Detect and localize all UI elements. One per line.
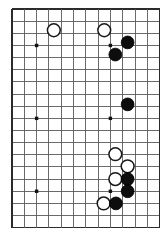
- black-stone-body: [109, 48, 122, 61]
- black-stone-body: [110, 197, 123, 210]
- black-stone-body: [121, 173, 134, 186]
- white-stone-body: [98, 24, 111, 37]
- stone-black[interactable]: [109, 48, 122, 61]
- white-stone-body: [97, 197, 110, 210]
- white-stone-body: [109, 173, 122, 186]
- white-stone-body: [47, 24, 60, 37]
- grid-lines-group: [12, 9, 160, 228]
- star-point: [109, 44, 112, 47]
- star-point: [109, 117, 112, 120]
- stone-white[interactable]: [109, 148, 122, 161]
- go-board-grid[interactable]: [0, 0, 161, 237]
- stone-white[interactable]: [47, 24, 60, 37]
- stone-black[interactable]: [121, 185, 134, 198]
- stone-black[interactable]: [121, 98, 134, 111]
- go-board-figure: [0, 0, 161, 237]
- stone-white[interactable]: [109, 173, 122, 186]
- black-stone-body: [121, 36, 134, 49]
- white-stone-body: [121, 160, 134, 173]
- stone-white[interactable]: [121, 160, 134, 173]
- stone-white[interactable]: [97, 197, 110, 210]
- star-point: [35, 117, 38, 120]
- stone-black[interactable]: [121, 36, 134, 49]
- stone-black[interactable]: [110, 197, 123, 210]
- stone-black[interactable]: [121, 173, 134, 186]
- star-point: [35, 190, 38, 193]
- star-point: [109, 190, 112, 193]
- stones-group[interactable]: [47, 24, 134, 210]
- black-stone-body: [121, 98, 134, 111]
- stone-white[interactable]: [98, 24, 111, 37]
- black-stone-body: [121, 185, 134, 198]
- star-point: [35, 44, 38, 47]
- white-stone-body: [109, 148, 122, 161]
